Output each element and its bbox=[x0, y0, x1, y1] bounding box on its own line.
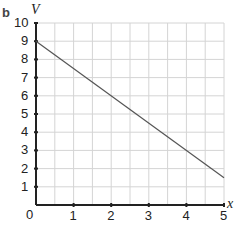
x-tick-label: 2 bbox=[107, 208, 114, 223]
y-tick-label: 2 bbox=[21, 161, 28, 176]
x-tick-label: 5 bbox=[220, 208, 227, 223]
y-tick-label: 4 bbox=[21, 124, 28, 139]
y-tick-label: 8 bbox=[21, 51, 28, 66]
origin-label: 0 bbox=[26, 207, 33, 222]
chart-plot bbox=[0, 0, 235, 226]
x-tick-label: 3 bbox=[145, 208, 152, 223]
y-tick-label: 7 bbox=[21, 70, 28, 85]
grid-lines bbox=[36, 23, 224, 205]
axes bbox=[34, 23, 224, 207]
x-tick-label: 4 bbox=[182, 208, 189, 223]
y-tick-label: 5 bbox=[21, 106, 28, 121]
y-tick-label: 3 bbox=[21, 142, 28, 157]
x-tick-label: 1 bbox=[70, 208, 77, 223]
y-tick-label: 9 bbox=[21, 33, 28, 48]
y-tick-label: 10 bbox=[14, 15, 28, 30]
y-tick-label: 1 bbox=[21, 179, 28, 194]
y-tick-label: 6 bbox=[21, 88, 28, 103]
